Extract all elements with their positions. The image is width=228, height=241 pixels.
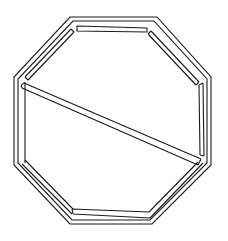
octagon-frame-drawing xyxy=(0,0,228,241)
background xyxy=(0,0,228,241)
octagon-frame-svg xyxy=(0,0,228,241)
